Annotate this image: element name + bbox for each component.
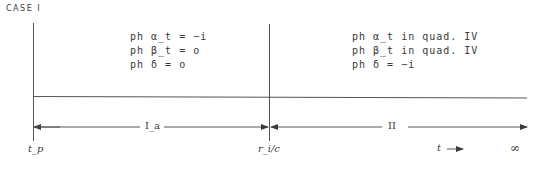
interval-label-ia: I_a	[141, 120, 164, 131]
axis-label-infinity: ∞	[510, 141, 520, 155]
condition-delta: ph δ = o	[130, 58, 207, 72]
case-title: CASE I	[6, 4, 41, 13]
region-left-conditions: ph α_t = −i ph β_t = o ph δ = o	[130, 30, 207, 72]
region-right-conditions: ph α_t in quad. IV ph β_t in quad. IV ph…	[352, 30, 478, 72]
condition-alpha: ph α_t in quad. IV	[352, 30, 478, 44]
condition-alpha: ph α_t = −i	[130, 30, 207, 44]
axis-label-tp: t_p	[28, 143, 43, 154]
horizontal-separator	[33, 97, 527, 99]
condition-delta: ph δ = −i	[352, 58, 478, 72]
axis-label-time: t	[437, 142, 441, 153]
interval-label-ii: II	[384, 120, 400, 131]
condition-beta: ph β_t = o	[130, 44, 207, 58]
axis-label-ric: r_i/c	[258, 143, 280, 154]
condition-beta: ph β_t in quad. IV	[352, 44, 478, 58]
